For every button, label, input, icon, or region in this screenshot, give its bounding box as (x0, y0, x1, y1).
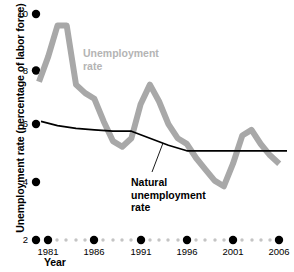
series-unemployment-rate (39, 26, 279, 187)
x-tick-dot-2001 (229, 236, 237, 244)
series-natural-unemployment-rate (41, 121, 287, 150)
x-axis-minor-dots (55, 238, 271, 241)
natural-rate-label-line2: unemployment (131, 189, 206, 201)
natural-rate-label-line3: rate (131, 201, 150, 213)
x-tick-label-2001: 2001 (216, 246, 250, 257)
y-tick-dot-2 (32, 236, 40, 244)
y-axis-tick-dots (32, 10, 40, 244)
x-tick-label-1991: 1991 (124, 246, 158, 257)
y-tick-dot-6 (32, 120, 40, 128)
y-axis-title: Unemployment rate (percentage of labor f… (14, 2, 26, 234)
unemployment-rate-label: Unemploymentrate (83, 47, 159, 72)
x-tick-dot-1996 (183, 236, 191, 244)
x-tick-label-1986: 1986 (77, 246, 111, 257)
x-axis-title: Year (44, 256, 66, 268)
chart-plot-area (0, 0, 294, 272)
unemployment-rate-label-line2: rate (83, 60, 102, 72)
y-tick-dot-4 (32, 178, 40, 186)
natural-unemployment-rate-label: Naturalunemploymentrate (131, 176, 206, 214)
x-tick-dot-1981 (44, 236, 52, 244)
x-tick-dot-2006 (275, 236, 283, 244)
x-tick-dot-1991 (137, 236, 145, 244)
y-tick-label-2: 2 (12, 234, 28, 245)
natural-rate-leader-line (152, 143, 163, 172)
x-tick-dot-1986 (90, 236, 98, 244)
x-tick-label-2006: 2006 (262, 246, 294, 257)
y-tick-dot-10 (32, 10, 40, 18)
unemployment-rate-chart: 10 8 6 4 2 1981 1986 1991 1996 2001 2006… (0, 0, 294, 272)
x-tick-label-1996: 1996 (170, 246, 204, 257)
natural-rate-label-line1: Natural (131, 176, 167, 188)
unemployment-rate-label-line1: Unemployment (83, 47, 159, 59)
x-axis-major-dots (44, 236, 283, 244)
